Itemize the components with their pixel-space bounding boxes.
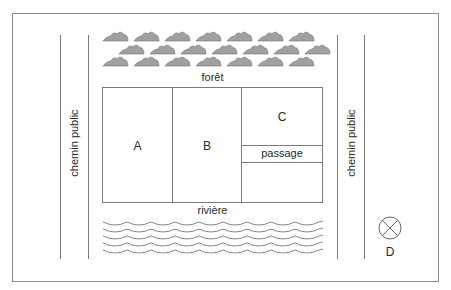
point-d-label: D [380,245,400,259]
